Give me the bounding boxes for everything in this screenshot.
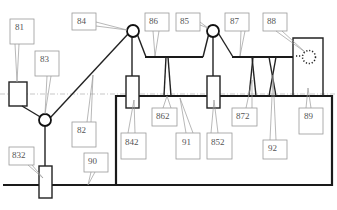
dotted-circle-88 <box>303 51 316 64</box>
pulley-84 <box>127 25 139 37</box>
cable-85-87 <box>217 31 233 57</box>
callout-90: 90 <box>84 153 108 185</box>
cable-86-85 <box>203 33 209 57</box>
block-842 <box>126 76 139 108</box>
label-90: 90 <box>88 156 98 166</box>
block-81 <box>9 82 27 106</box>
label-872: 872 <box>236 111 250 121</box>
label-84: 84 <box>77 16 87 26</box>
label-88: 88 <box>267 16 277 26</box>
mechanical-schematic: 81 83 84 86 85 87 88 82 <box>0 0 337 210</box>
callout-88: 88 <box>263 13 305 52</box>
label-862: 862 <box>156 111 170 121</box>
callout-842: 842 <box>121 100 146 159</box>
callout-81: 81 <box>10 19 34 82</box>
callout-832: 832 <box>9 147 43 178</box>
label-86: 86 <box>149 16 159 26</box>
label-842: 842 <box>125 137 139 147</box>
label-81: 81 <box>15 22 24 32</box>
label-91: 91 <box>182 137 191 147</box>
callout-82: 82 <box>72 75 96 147</box>
label-89: 89 <box>304 111 314 121</box>
label-832: 832 <box>12 150 26 160</box>
callout-83: 83 <box>35 51 59 114</box>
label-83: 83 <box>40 54 50 64</box>
pulley-83 <box>39 114 51 126</box>
callout-862: 862 <box>152 96 177 126</box>
support-872-b <box>252 57 256 96</box>
callout-852: 852 <box>207 100 232 159</box>
cable-81-83 <box>22 106 42 118</box>
callout-84: 84 <box>72 13 127 30</box>
label-87: 87 <box>230 16 240 26</box>
label-82: 82 <box>77 125 86 135</box>
label-85: 85 <box>180 16 190 26</box>
support-862-right <box>168 57 171 96</box>
callout-85: 85 <box>176 13 208 31</box>
callout-91: 91 <box>176 98 200 159</box>
block-832 <box>39 166 52 198</box>
callout-872: 872 <box>232 80 257 126</box>
callout-86: 86 <box>145 13 169 56</box>
label-852: 852 <box>211 137 225 147</box>
pulley-85 <box>207 25 219 37</box>
support-862-left <box>164 57 166 96</box>
label-92: 92 <box>268 143 277 153</box>
